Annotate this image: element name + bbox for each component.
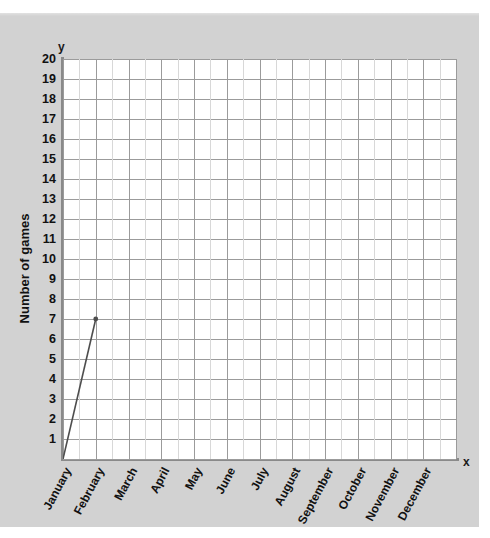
grid-line-vertical bbox=[129, 59, 130, 459]
y-axis-tick-9: 9 bbox=[4, 273, 56, 285]
grid-line-vertical bbox=[325, 59, 326, 459]
y-axis-letter: y bbox=[58, 40, 65, 54]
grid-line-vertical bbox=[423, 59, 424, 459]
x-axis-letter: x bbox=[463, 455, 470, 469]
x-axis-tick-label: October bbox=[335, 465, 369, 512]
x-axis-tick-label: March bbox=[111, 465, 140, 503]
grid-line-vertical bbox=[63, 59, 64, 459]
y-axis-tick-16: 16 bbox=[4, 133, 56, 145]
grid-line-vertical bbox=[161, 59, 162, 459]
y-axis-tick-5: 5 bbox=[4, 353, 56, 365]
grid-line-vertical bbox=[374, 59, 375, 459]
x-axis-tick-label: June bbox=[213, 465, 239, 496]
y-axis-tick-7: 7 bbox=[4, 313, 56, 325]
y-axis-tick-19: 19 bbox=[4, 73, 56, 85]
grid-line-vertical bbox=[210, 59, 211, 459]
grid-line-vertical bbox=[440, 59, 441, 459]
grid-line-vertical bbox=[243, 59, 244, 459]
chart-page: Number of games 201918171615141312111098… bbox=[0, 0, 490, 538]
grid-line-vertical bbox=[292, 59, 293, 459]
grid-line-vertical bbox=[358, 59, 359, 459]
grid-line-vertical bbox=[227, 59, 228, 459]
plot-area bbox=[63, 59, 456, 459]
x-axis-tick-label: February bbox=[71, 465, 107, 517]
y-axis-tick-13: 13 bbox=[4, 193, 56, 205]
grid-line-vertical bbox=[260, 59, 261, 459]
grid-line-vertical bbox=[407, 59, 408, 459]
y-axis-tick-8: 8 bbox=[4, 293, 56, 305]
grid-line-vertical bbox=[79, 59, 80, 459]
y-axis-tick-18: 18 bbox=[4, 93, 56, 105]
grid-line-vertical bbox=[309, 59, 310, 459]
y-axis-tick-labels: 2019181716151413121110987654321 bbox=[0, 13, 56, 538]
y-axis-tick-14: 14 bbox=[4, 173, 56, 185]
grid-line-vertical bbox=[456, 59, 457, 459]
grid-line-vertical bbox=[276, 59, 277, 459]
grid-line-vertical bbox=[96, 59, 97, 459]
y-axis-tick-3: 3 bbox=[4, 393, 56, 405]
grid-line-vertical bbox=[112, 59, 113, 459]
y-axis-tick-2: 2 bbox=[4, 413, 56, 425]
y-axis-tick-1: 1 bbox=[4, 433, 56, 445]
y-axis-tick-12: 12 bbox=[4, 213, 56, 225]
x-axis-tick-label: July bbox=[247, 465, 271, 493]
x-axis-tick-label: May bbox=[182, 465, 205, 492]
x-axis-tick-label: April bbox=[147, 465, 172, 496]
grid-line-vertical bbox=[178, 59, 179, 459]
y-axis-tick-6: 6 bbox=[4, 333, 56, 345]
grid-line-vertical bbox=[341, 59, 342, 459]
grid-lines bbox=[63, 59, 456, 459]
chart-card: Number of games 201918171615141312111098… bbox=[0, 13, 479, 527]
x-axis-tick-label: August bbox=[272, 465, 304, 508]
y-axis-tick-4: 4 bbox=[4, 373, 56, 385]
y-axis-tick-17: 17 bbox=[4, 113, 56, 125]
grid-line-vertical bbox=[194, 59, 195, 459]
grid-line-vertical bbox=[391, 59, 392, 459]
y-axis-tick-20: 20 bbox=[4, 53, 56, 65]
grid-line-vertical bbox=[145, 59, 146, 459]
y-axis-tick-11: 11 bbox=[4, 233, 56, 245]
y-axis-tick-10: 10 bbox=[4, 253, 56, 265]
y-axis-tick-15: 15 bbox=[4, 153, 56, 165]
